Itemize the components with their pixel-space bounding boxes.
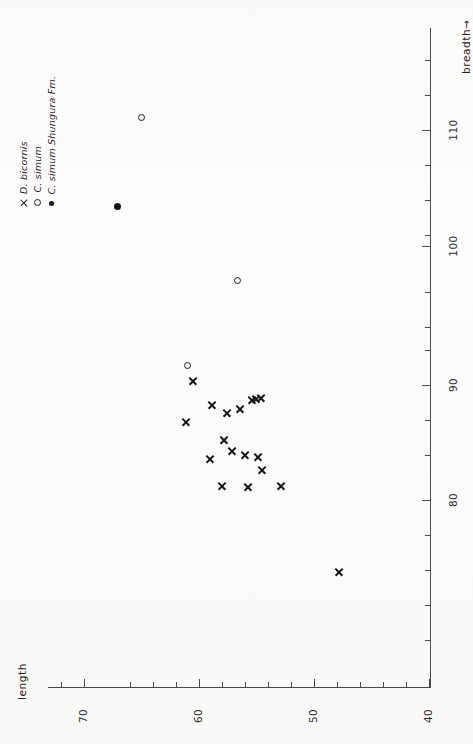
- data-point-cross: [253, 452, 264, 463]
- data-point-cross: [257, 465, 268, 476]
- data-point-cross: [227, 446, 238, 457]
- data-point-cross: [251, 394, 262, 405]
- data-point-layer: [0, 0, 473, 744]
- scatter-plot-figure: 110 100 90 80 70 60 50 40 breadth→ lengt…: [0, 0, 473, 744]
- data-point-cross: [217, 481, 228, 492]
- data-point-cross: [181, 417, 192, 428]
- data-point-cross: [334, 567, 345, 578]
- data-point-cross: [235, 404, 246, 415]
- data-point-cross: [243, 482, 254, 493]
- data-point-cross: [205, 454, 216, 465]
- data-point-open-circle: [184, 362, 191, 369]
- data-point-cross: [240, 450, 251, 461]
- data-point-cross: [207, 400, 218, 411]
- data-point-cross: [188, 376, 199, 387]
- data-point-cross: [276, 481, 287, 492]
- data-point-cross: [219, 435, 230, 446]
- data-point-open-circle: [234, 277, 241, 284]
- data-point-filled-circle: [114, 203, 121, 210]
- data-point-cross: [222, 408, 233, 419]
- data-point-open-circle: [138, 114, 145, 121]
